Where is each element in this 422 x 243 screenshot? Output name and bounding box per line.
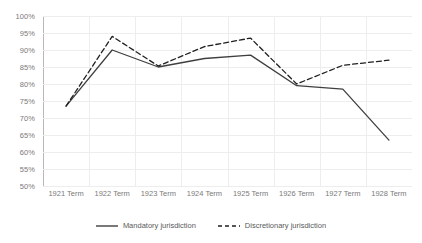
x-axis-tick-label: 1925 Term [233, 189, 268, 198]
x-axis-tick-label: 1927 Term [325, 189, 360, 198]
y-axis-tick-label: 80% [20, 80, 35, 89]
y-axis-tick-label: 60% [20, 148, 35, 157]
y-axis-tick-label: 85% [20, 63, 35, 72]
series-lines [43, 16, 412, 186]
y-axis-tick-label: 75% [20, 97, 35, 106]
legend-label-mandatory-jurisdiction: Mandatory jurisdiction [123, 221, 196, 230]
y-axis-tick-label: 90% [20, 46, 35, 55]
y-axis-tick-label: 65% [20, 131, 35, 140]
series-line [66, 36, 389, 106]
line-chart: 100%95%90%85%80%75%70%65%60%55%50% 1921 … [0, 0, 422, 243]
legend-label-discretionary-jurisdiction: Discretionary jurisdiction [245, 221, 326, 230]
gridline-horizontal [43, 186, 412, 187]
y-axis-tick-label: 95% [20, 29, 35, 38]
y-axis-tick-label: 100% [15, 12, 35, 21]
x-axis-tick-label: 1923 Term [141, 189, 176, 198]
x-axis-tick-label: 1922 Term [95, 189, 130, 198]
y-axis-tick-label: 70% [20, 114, 35, 123]
plot-area [43, 16, 412, 186]
x-axis-tick-label: 1924 Term [187, 189, 222, 198]
chart-legend: Mandatory jurisdiction Discretionary jur… [0, 221, 422, 230]
x-axis: 1921 Term1922 Term1923 Term1924 Term1925… [43, 189, 412, 203]
y-axis: 100%95%90%85%80%75%70%65%60%55%50% [0, 16, 39, 186]
legend-item-mandatory-jurisdiction: Mandatory jurisdiction [96, 221, 196, 230]
legend-item-discretionary-jurisdiction: Discretionary jurisdiction [218, 221, 326, 230]
y-axis-tick-label: 50% [20, 182, 35, 191]
x-axis-tick-label: 1928 Term [371, 189, 406, 198]
y-axis-tick-label: 55% [20, 165, 35, 174]
series-line [66, 50, 389, 140]
legend-line-solid-icon [96, 222, 118, 230]
x-axis-tick-label: 1921 Term [48, 189, 83, 198]
x-axis-tick-label: 1926 Term [279, 189, 314, 198]
legend-line-dashed-icon [218, 222, 240, 230]
